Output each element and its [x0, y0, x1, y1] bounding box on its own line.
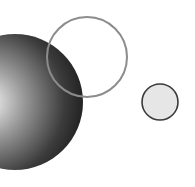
- shaded-sphere: [0, 34, 83, 170]
- drawing-canvas: [0, 0, 195, 187]
- small-filled-circle: [142, 84, 178, 120]
